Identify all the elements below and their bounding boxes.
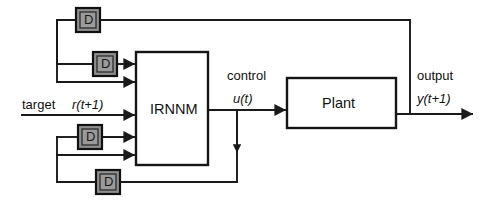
output-expression-label: y(t+1) <box>417 92 451 105</box>
control-expression-label: u(t) <box>233 92 253 105</box>
delay-bottom-label: D <box>104 175 113 188</box>
control-label: control <box>227 69 266 82</box>
delay-top-label: D <box>84 13 93 26</box>
outer-feedback-to-bus <box>57 20 76 62</box>
delay-upper-input-label: D <box>101 57 110 70</box>
target-expression-label: r(t+1) <box>72 98 103 111</box>
target-label: target <box>22 98 55 111</box>
block-diagram: IRNNM Plant D D D D target r(t+1) contro… <box>0 0 484 204</box>
plant-block-label: Plant <box>322 96 355 111</box>
irnnm-block-label: IRNNM <box>150 102 198 117</box>
output-label: output <box>417 69 453 82</box>
delay-lower-input-label: D <box>86 130 95 143</box>
